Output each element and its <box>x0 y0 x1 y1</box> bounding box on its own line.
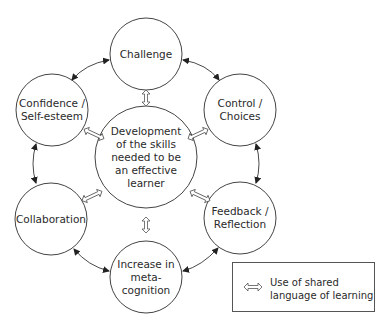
node-collaboration: Collaboration <box>13 183 89 255</box>
node-confidence: Confidence / Self-esteem <box>13 74 91 146</box>
legend-label: Use of shared language of learning <box>270 276 373 302</box>
node-challenge: Challenge <box>110 18 182 90</box>
node-increase: Increase in meta- cognition <box>110 241 182 313</box>
center-node: Development of the skills needed to be a… <box>98 108 194 206</box>
node-control: Control / Choices <box>204 74 276 146</box>
node-feedback: Feedback / Reflection <box>204 182 276 254</box>
